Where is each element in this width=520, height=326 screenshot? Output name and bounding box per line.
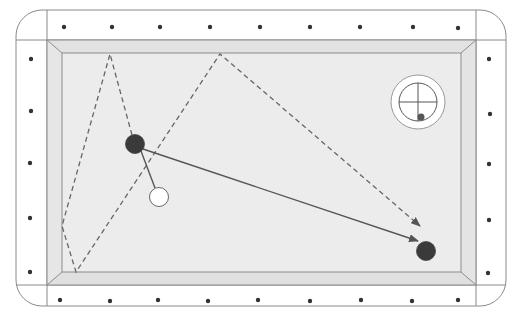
cue-ball (150, 188, 169, 207)
diamond-bottom-9 (456, 298, 460, 302)
object-ball-1 (126, 135, 145, 154)
spin-indicator (391, 75, 445, 129)
diamond-bottom-5 (256, 298, 260, 302)
diamond-bottom-1 (58, 298, 62, 302)
diamond-bottom-6 (308, 299, 312, 303)
contact-point-dot (418, 114, 425, 121)
object-ball-2 (417, 242, 436, 261)
diamond-bottom-7 (359, 298, 363, 302)
top-cushion (47, 40, 476, 53)
diamond-bottom-4 (206, 299, 210, 303)
diamond-top-3 (158, 25, 162, 29)
diamond-top-1 (62, 25, 66, 29)
diamond-right-3 (487, 162, 491, 166)
right-cushion (461, 40, 476, 285)
diamond-left-4 (28, 216, 32, 220)
diamond-top-5 (258, 25, 262, 29)
diamond-right-4 (487, 218, 491, 222)
diamond-right-2 (488, 112, 492, 116)
diamond-left-3 (28, 161, 32, 165)
diamond-top-6 (308, 25, 312, 29)
diamond-bottom-3 (156, 298, 160, 302)
left-cushion (47, 40, 62, 285)
diamond-left-1 (29, 57, 33, 61)
diamond-bottom-2 (108, 299, 112, 303)
pool-table (16, 10, 506, 306)
diamond-top-9 (456, 26, 460, 30)
diamond-left-2 (29, 109, 33, 113)
diamond-bottom-8 (410, 299, 414, 303)
diamond-top-8 (411, 25, 415, 29)
diamond-right-5 (486, 271, 490, 275)
diamond-top-2 (110, 25, 114, 29)
table-diagram-canvas (0, 0, 520, 326)
diamond-top-7 (358, 25, 362, 29)
diamond-top-4 (208, 25, 212, 29)
diamond-left-5 (28, 270, 32, 274)
diamond-right-1 (487, 57, 491, 61)
billiards-diagram (0, 0, 520, 326)
bottom-cushion (47, 272, 476, 285)
